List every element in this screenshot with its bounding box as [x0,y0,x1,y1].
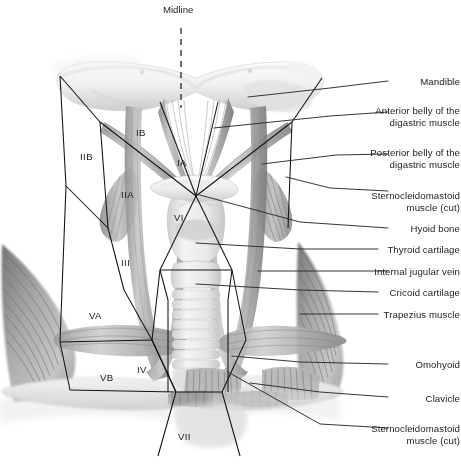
callout-label-trapezius: Trapezius muscle [384,309,460,321]
leader-line-cricoid-cartilage [196,284,378,292]
callout-label-omohyoid: Omohyoid [415,359,460,371]
callout-label-cricoid-cartilage: Cricoid cartilage [390,287,460,299]
level-label-VII: VII [178,431,191,442]
level-label-IB: IB [136,127,146,138]
level-label-IV: IV [137,364,147,375]
leader-line-thyroid-cartilage [196,243,378,249]
level-label-IIB: IIB [80,151,93,162]
callout-label-clavicle: Clavicle [426,393,460,405]
callout-label-posterior-digastric: Posterior belly of thedigastric muscle [370,147,460,170]
callout-label-anterior-digastric: Anterior belly of thedigastric muscle [375,105,460,128]
callout-label-thyroid-cartilage: Thyroid cartilage [387,244,460,256]
callout-label-scm-cut-lower: Sternocleidomastoidmuscle (cut) [371,423,460,446]
leader-line-scm-cut-upper [286,177,388,191]
level-label-IIA: IIA [121,189,134,200]
callout-label-hyoid-bone: Hyoid bone [410,223,460,235]
callout-label-scm-cut-upper: Sternocleidomastoidmuscle (cut) [371,190,460,213]
level-label-III: III [121,257,130,268]
midline-label: Midline [163,4,193,15]
level-label-VB: VB [100,372,114,383]
leader-line-posterior-digastric [262,154,388,164]
callout-label-mandible: Mandible [420,76,460,88]
neck-anatomy-illustration [0,0,461,466]
level-label-VA: VA [89,310,102,321]
leader-line-anterior-digastric [214,112,388,128]
level-label-IA: IA [177,157,187,168]
level-label-VI: VI [174,212,184,223]
figure-canvas: Midline IBIIBIAIIAVIIIIVAIVVBVII Mandibl… [0,0,461,466]
callout-label-internal-jugular: Internal jugular vein [374,266,460,278]
